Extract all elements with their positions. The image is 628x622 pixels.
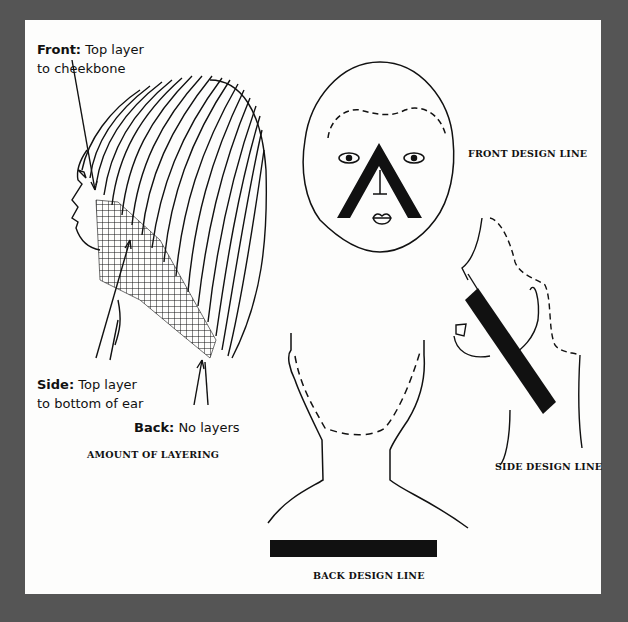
caption-side-design-line: SIDE DESIGN LINE <box>495 461 602 472</box>
side-design-line-shape <box>465 288 556 414</box>
callout-front-text-2: to cheekbone <box>37 61 126 76</box>
caption-amount-of-layering: AMOUNT OF LAYERING <box>87 449 219 460</box>
callout-side-text-2: to bottom of ear <box>37 396 143 411</box>
callout-front-text: Top layer <box>85 42 144 57</box>
callout-back-text: No layers <box>178 420 239 435</box>
back-neck-drawing <box>268 333 468 528</box>
illustration <box>25 20 601 594</box>
back-design-line-shape <box>270 540 437 557</box>
callout-side-text: Top layer <box>78 377 137 392</box>
caption-back-design-line: BACK DESIGN LINE <box>313 570 425 581</box>
callout-back: Back: No layers <box>134 418 240 437</box>
callout-front-term: Front: <box>37 42 81 57</box>
callout-side-term: Side: <box>37 377 74 392</box>
side-profile-drawing <box>454 218 582 465</box>
callout-back-term: Back: <box>134 420 174 435</box>
diagram-panel: Front: Top layer to cheekbone Side: Top … <box>25 20 601 594</box>
caption-front-design-line: FRONT DESIGN LINE <box>468 148 587 159</box>
callout-side: Side: Top layer to bottom of ear <box>37 375 143 413</box>
callout-front: Front: Top layer to cheekbone <box>37 40 144 78</box>
